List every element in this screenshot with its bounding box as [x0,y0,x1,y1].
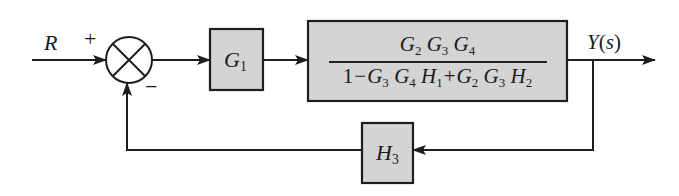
output-label-ys: Y(s) [587,30,621,55]
transfer-numerator: G2 G3 G4 [400,32,476,61]
h3-label: H3 [376,140,399,168]
transfer-denominator: 1−G3 G4 H1+G2 G3 H2 [343,63,532,91]
transfer-function-fraction: G2 G3 G4 1−G3 G4 H1+G2 G3 H2 [308,21,567,101]
g1-label: G1 [224,47,247,75]
plus-sign: + [84,26,96,52]
input-label-r: R [44,30,57,56]
minus-sign: − [145,74,157,100]
